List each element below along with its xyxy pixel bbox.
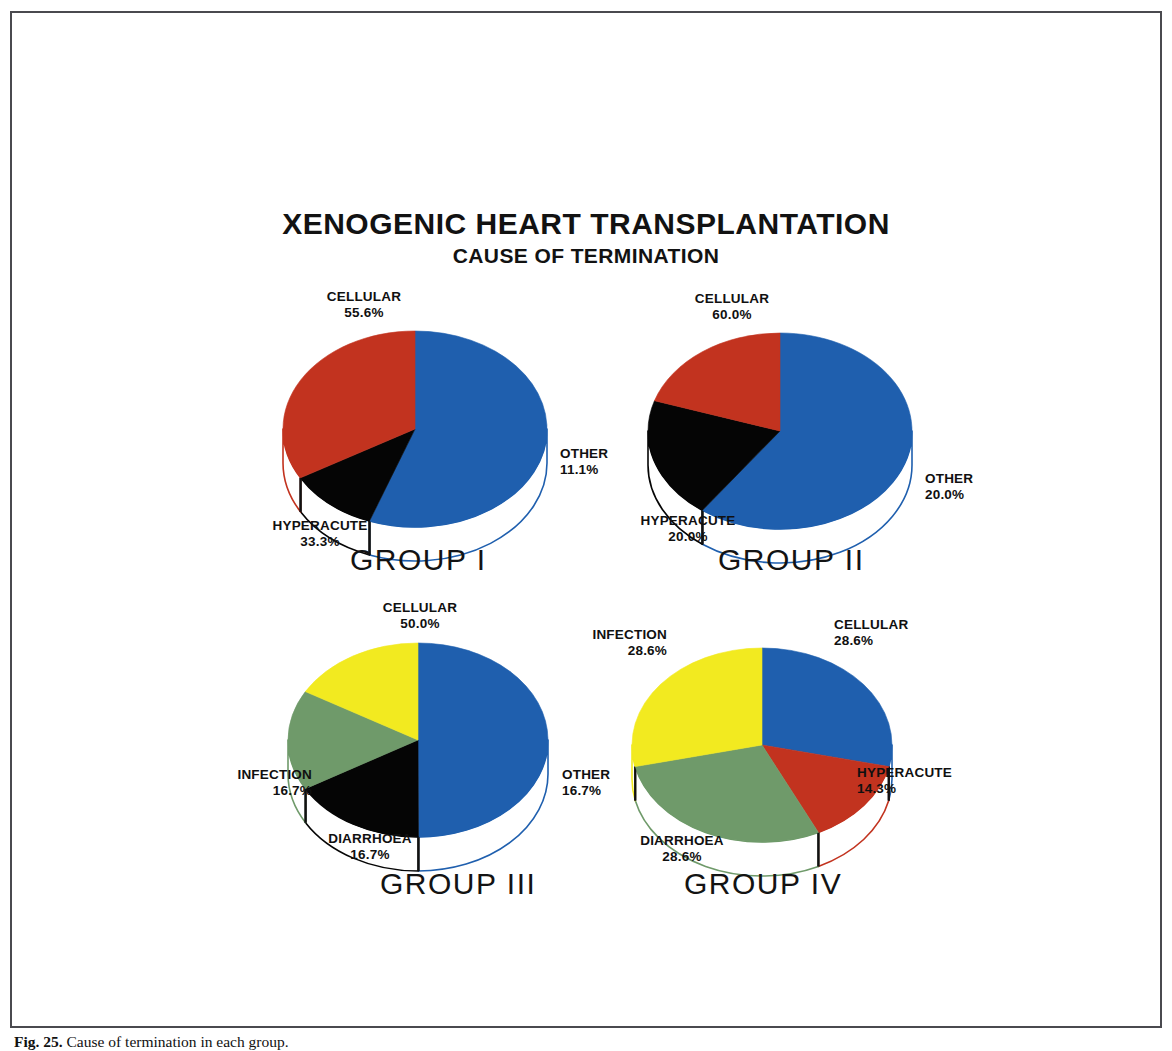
chart-title-block: XENOGENIC HEART TRANSPLANTATION CAUSE OF…: [12, 208, 1160, 268]
slice-label-group-1-cellular: CELLULAR55.6%: [274, 289, 454, 321]
slice-label-group-3-infection: INFECTION16.7%: [182, 767, 312, 799]
figure-caption-label: Fig. 25.: [14, 1033, 63, 1050]
group-caption-group-4: GROUP IV: [684, 867, 842, 901]
slice-label-name: OTHER: [925, 471, 1055, 487]
slice-label-percent: 60.0%: [642, 307, 822, 323]
slice-label-group-4-diarrhoea: DIARRHOEA28.6%: [592, 833, 772, 865]
slice-label-name: CELLULAR: [834, 617, 984, 633]
slice-label-group-4-hyperacute: HYPERACUTE14.3%: [857, 765, 1007, 797]
pie-top-faces: [283, 331, 547, 527]
slice-label-name: INFECTION: [182, 767, 312, 783]
slice-label-percent: 20.0%: [925, 487, 1055, 503]
pie-panel-group-1: CELLULAR55.6%OTHER11.1%HYPERACUTE33.3%GR…: [210, 281, 630, 611]
slice-label-name: CELLULAR: [330, 600, 510, 616]
slice-label-percent: 28.6%: [517, 643, 667, 659]
slice-label-percent: 28.6%: [834, 633, 984, 649]
figure-caption-text: Cause of termination in each group.: [67, 1033, 289, 1050]
slice-label-name: DIARRHOEA: [592, 833, 772, 849]
figure-frame: XENOGENIC HEART TRANSPLANTATION CAUSE OF…: [10, 11, 1162, 1028]
slice-label-group-3-cellular: CELLULAR50.0%: [330, 600, 510, 632]
slice-label-percent: 55.6%: [274, 305, 454, 321]
slice-label-percent: 16.7%: [280, 847, 460, 863]
pie-top-faces: [648, 333, 912, 529]
slice-label-name: HYPERACUTE: [230, 518, 410, 534]
figure-body: XENOGENIC HEART TRANSPLANTATION CAUSE OF…: [12, 13, 1160, 1026]
slice-label-group-4-cellular: CELLULAR28.6%: [834, 617, 984, 649]
pie-panel-group-4: CELLULAR28.6%HYPERACUTE14.3%DIARRHOEA28.…: [572, 605, 992, 935]
slice-label-group-3-diarrhoea: DIARRHOEA16.7%: [280, 831, 460, 863]
group-caption-group-2: GROUP II: [718, 543, 864, 577]
slice-label-name: CELLULAR: [642, 291, 822, 307]
slice-label-percent: 50.0%: [330, 616, 510, 632]
pie-top-faces: [632, 648, 892, 842]
slice-label-name: DIARRHOEA: [280, 831, 460, 847]
slice-label-group-2-hyperacute: HYPERACUTE20.0%: [598, 513, 778, 545]
slice-label-name: CELLULAR: [274, 289, 454, 305]
slice-label-group-2-other: OTHER20.0%: [925, 471, 1055, 503]
slice-label-percent: 28.6%: [592, 849, 772, 865]
slice-label-name: HYPERACUTE: [857, 765, 1007, 781]
page-subtitle: CAUSE OF TERMINATION: [12, 243, 1160, 268]
figure-caption: Fig. 25. Cause of termination in each gr…: [14, 1033, 1154, 1051]
group-caption-group-3: GROUP III: [380, 867, 536, 901]
pie-panel-group-2: CELLULAR60.0%OTHER20.0%HYPERACUTE20.0%GR…: [570, 281, 990, 611]
slice-label-group-4-infection: INFECTION28.6%: [517, 627, 667, 659]
slice-label-group-2-cellular: CELLULAR60.0%: [642, 291, 822, 323]
slice-label-name: HYPERACUTE: [598, 513, 778, 529]
page-title: XENOGENIC HEART TRANSPLANTATION: [12, 208, 1160, 240]
pie-top-faces: [288, 643, 548, 837]
group-caption-group-1: GROUP I: [350, 543, 487, 577]
slice-label-name: INFECTION: [517, 627, 667, 643]
slice-label-percent: 14.3%: [857, 781, 1007, 797]
slice-label-percent: 16.7%: [182, 783, 312, 799]
